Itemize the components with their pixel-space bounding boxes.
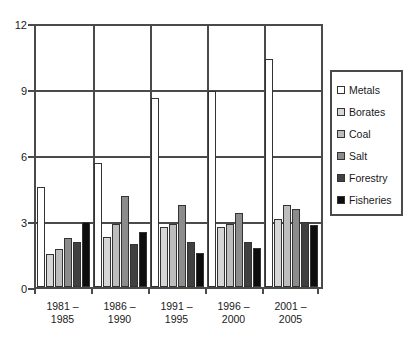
bar <box>274 219 283 288</box>
legend-item-metals[interactable]: Metals <box>337 79 401 101</box>
x-axis-ticks <box>34 289 323 295</box>
bar <box>301 222 310 287</box>
legend-label: Metals <box>349 85 380 96</box>
legend-swatch-icon <box>337 108 345 116</box>
legend-swatch-icon <box>337 152 345 160</box>
legend-item-salt[interactable]: Salt <box>337 145 401 167</box>
bar <box>265 59 274 287</box>
bar <box>253 248 262 287</box>
bar <box>112 224 121 287</box>
x-axis-group-label: 2001 – 2005 <box>262 300 319 326</box>
legend-swatch-icon <box>337 130 345 138</box>
y-tick-label-9: 9 <box>5 86 27 97</box>
bar <box>244 242 253 287</box>
bar <box>169 224 178 287</box>
bar <box>196 253 205 287</box>
legend-label: Salt <box>349 151 367 162</box>
bar <box>208 91 217 287</box>
bar <box>283 205 292 287</box>
legend-swatch-icon <box>337 86 345 94</box>
bar-chart: 12 9 6 3 0 1981 – 19851986 – 19901991 – … <box>0 0 409 345</box>
x-tick-mark <box>262 289 264 294</box>
bar <box>235 213 244 287</box>
bar <box>151 98 160 287</box>
x-axis-group-label: 1981 – 1985 <box>34 300 91 326</box>
x-tick-mark <box>148 289 150 294</box>
x-axis-group-label: 1991 – 1995 <box>148 300 205 326</box>
bar <box>82 222 91 287</box>
bar <box>217 227 226 287</box>
y-axis-labels: 12 9 6 3 0 <box>0 0 27 345</box>
gridline-9 <box>36 90 321 92</box>
bar <box>226 224 235 287</box>
x-tick-mark <box>317 289 319 294</box>
legend-swatch-icon <box>337 174 345 182</box>
bar <box>46 254 55 287</box>
bar <box>310 225 319 287</box>
bar <box>64 238 73 287</box>
bar <box>292 209 301 287</box>
bar <box>160 227 169 287</box>
gridline-6 <box>36 156 321 158</box>
legend-label: Fisheries <box>349 195 392 206</box>
legend-item-coal[interactable]: Coal <box>337 123 401 145</box>
bar <box>121 196 130 287</box>
bar <box>73 242 82 287</box>
y-tick-label-3: 3 <box>5 218 27 229</box>
y-tick-label-0: 0 <box>5 284 27 295</box>
legend-item-borates[interactable]: Borates <box>337 101 401 123</box>
chart-legend: MetalsBoratesCoalSaltForestryFisheries <box>330 70 403 216</box>
x-axis-labels: 1981 – 19851986 – 19901991 – 19951996 – … <box>34 300 323 340</box>
bar <box>187 242 196 287</box>
plot-area <box>34 24 323 289</box>
legend-item-forestry[interactable]: Forestry <box>337 167 401 189</box>
bar <box>130 244 139 288</box>
y-tick-label-6: 6 <box>5 152 27 163</box>
legend-swatch-icon <box>337 196 345 204</box>
x-tick-mark <box>34 289 36 294</box>
x-axis-group-label: 1986 – 1990 <box>91 300 148 326</box>
legend-label: Coal <box>349 129 371 140</box>
bar <box>139 232 148 287</box>
y-tick-label-12: 12 <box>5 20 27 31</box>
bar <box>103 237 112 287</box>
legend-label: Borates <box>349 107 385 118</box>
bar <box>55 249 64 287</box>
legend-item-fisheries[interactable]: Fisheries <box>337 189 401 211</box>
bar <box>178 205 187 287</box>
legend-label: Forestry <box>349 173 388 184</box>
x-tick-mark <box>205 289 207 294</box>
bar <box>94 163 103 287</box>
x-tick-mark <box>91 289 93 294</box>
x-axis-group-label: 1996 – 2000 <box>205 300 262 326</box>
bar <box>37 187 46 287</box>
